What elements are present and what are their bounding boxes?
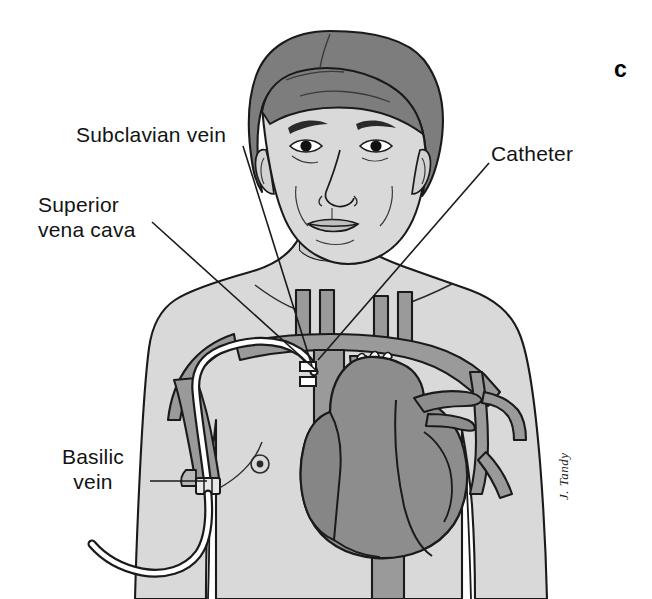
eye-left: [290, 140, 322, 152]
anatomy-illustration: [0, 0, 652, 599]
label-svc-line2: vena cava: [38, 218, 136, 241]
eye-right: [360, 140, 392, 152]
label-superior-vena-cava: Superiorvena cava: [38, 193, 136, 243]
label-basilic-line2: vein: [73, 470, 112, 493]
label-basilic-vein: Basilicvein: [37, 445, 149, 495]
basilic-vein-stump: [181, 470, 196, 486]
jugular-vein-4: [398, 292, 412, 344]
label-basilic-line1: Basilic: [62, 445, 124, 468]
head-group: [249, 31, 443, 264]
label-catheter: Catheter: [491, 142, 573, 167]
artist-signature: J. Tandy: [556, 452, 572, 500]
label-subclavian-vein: Subclavian vein: [76, 123, 226, 148]
panel-letter: c: [614, 56, 627, 83]
label-svc-line1: Superior: [38, 193, 119, 216]
